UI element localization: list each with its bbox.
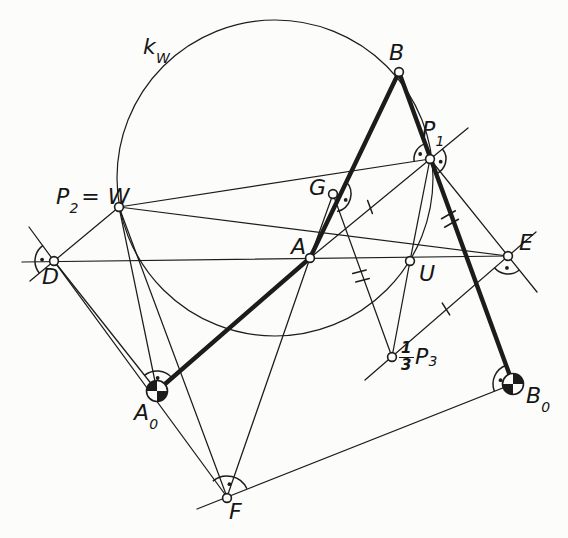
line-D-A0: [54, 261, 157, 391]
point-P1: [426, 155, 435, 164]
angle-arc-P1-left-dot: [418, 152, 422, 156]
point-E: [504, 252, 513, 261]
angle-arc-A0-dot: [156, 376, 160, 380]
label-P1: P1: [422, 119, 445, 141]
label-U: U: [419, 263, 436, 285]
label-D: D: [42, 266, 59, 288]
pivot-A0-wedge-1: [147, 381, 158, 392]
label-one-third-P3: 13 P3: [399, 341, 438, 374]
line-W-F: [119, 207, 227, 497]
angle-arc-B0-dot: [499, 378, 503, 382]
label-E: E: [519, 232, 533, 254]
diagram-canvas: [0, 0, 568, 538]
label-F: F: [229, 501, 242, 523]
angle-arc-P1-right-dot: [439, 160, 443, 164]
point-P3: [388, 353, 397, 362]
angle-arc-D-dot: [40, 258, 44, 262]
angle-arc-F-dot: [228, 482, 232, 486]
pivot-B0-wedge-1: [513, 374, 524, 385]
pivot-B0-wedge-2: [503, 384, 514, 395]
point-G: [329, 190, 338, 199]
label-P2-equals-W: P2= W: [56, 186, 130, 208]
label-kW: kW: [143, 36, 171, 58]
tick-P3-E: [442, 303, 449, 315]
double-tick-G-P3-2: [356, 278, 370, 282]
point-U: [406, 257, 415, 266]
link-A-B: [310, 72, 399, 258]
pivot-A0-wedge-2: [157, 391, 168, 402]
line-G-P3: [333, 194, 392, 357]
line-W-P1: [119, 159, 430, 207]
label-G: G: [309, 177, 327, 199]
figure-stage: kW B P1 P2= W G A U E D A0 B0 F 13 P3: [0, 0, 568, 538]
label-A: A: [291, 236, 307, 258]
label-B: B: [389, 42, 405, 64]
line-W-A0: [119, 207, 157, 391]
point-B: [395, 68, 404, 77]
angle-arc-G-dot: [344, 198, 348, 202]
one-third-fraction: 13: [399, 341, 414, 374]
line-P1-E-extended: [430, 159, 537, 292]
label-A0: A0: [134, 402, 159, 424]
label-B0: B0: [526, 385, 551, 407]
double-tick-G-P3-1: [353, 270, 367, 274]
angle-arc-E-dot: [505, 266, 509, 270]
